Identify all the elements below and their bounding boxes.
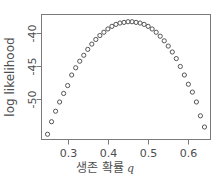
data-point xyxy=(90,42,94,46)
y-tick-label: -50 xyxy=(26,91,39,109)
data-point xyxy=(86,47,90,51)
x-tick-label: 0.3 xyxy=(60,147,78,160)
y-axis-title: log likelihood xyxy=(3,37,17,116)
data-point xyxy=(186,82,190,86)
data-point xyxy=(154,30,158,34)
data-point xyxy=(174,56,178,60)
data-point xyxy=(194,100,198,104)
x-axis-title-symbol: q xyxy=(127,162,134,175)
data-point xyxy=(118,21,122,25)
data-point xyxy=(158,34,162,38)
data-point xyxy=(170,50,174,54)
data-point xyxy=(74,66,78,70)
scatter-plot-svg: 0.30.40.50.6 -40-45-50 생존 확률 q log likel… xyxy=(0,0,216,179)
data-point xyxy=(106,27,110,31)
x-tick-label: 0.6 xyxy=(180,147,198,160)
data-point xyxy=(70,73,74,77)
x-tick-label: 0.5 xyxy=(140,147,158,160)
data-point xyxy=(94,37,98,41)
data-point xyxy=(102,30,106,34)
data-point xyxy=(98,33,102,37)
data-point-group xyxy=(45,20,206,137)
data-point xyxy=(182,73,186,77)
chart-figure: 0.30.40.50.6 -40-45-50 생존 확률 q log likel… xyxy=(0,0,216,179)
data-point xyxy=(58,100,62,104)
data-point xyxy=(190,90,194,94)
data-point xyxy=(49,120,53,124)
data-point xyxy=(178,64,182,68)
data-point xyxy=(202,125,206,129)
data-point xyxy=(66,83,70,87)
data-point xyxy=(162,39,166,43)
data-point xyxy=(150,27,154,31)
data-point xyxy=(134,20,138,24)
data-point xyxy=(122,20,126,24)
y-tick-label: -45 xyxy=(26,58,39,76)
data-point xyxy=(198,114,202,118)
x-axis-title: 생존 확률 xyxy=(76,161,124,175)
y-axis-tick-labels: -40-45-50 xyxy=(26,25,39,109)
data-point xyxy=(82,53,86,57)
data-point xyxy=(53,109,57,113)
x-tick-label: 0.4 xyxy=(100,147,118,160)
data-point xyxy=(62,91,66,95)
x-axis-tick-labels: 0.30.40.50.6 xyxy=(60,147,198,160)
data-point xyxy=(78,59,82,63)
data-point xyxy=(146,24,150,28)
x-axis-ticks xyxy=(69,140,189,145)
y-tick-label: -40 xyxy=(26,25,39,43)
data-point xyxy=(45,132,49,136)
data-point xyxy=(166,44,170,48)
